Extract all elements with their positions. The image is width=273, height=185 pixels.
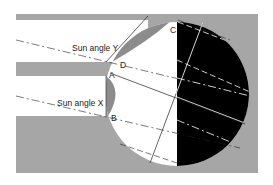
point-c-label: C (170, 25, 176, 35)
point-d-label: D (120, 60, 126, 70)
sun-angle-x-label: Sun angle X (57, 98, 104, 108)
lower-white-band (16, 76, 106, 116)
sun-angle-diagram: Sun angle Y Sun angle X C D A B (0, 0, 273, 185)
sun-angle-y-label: Sun angle Y (72, 43, 118, 53)
gray-band (16, 62, 106, 76)
point-b-label: B (111, 113, 117, 123)
point-a-label: A (109, 70, 115, 80)
